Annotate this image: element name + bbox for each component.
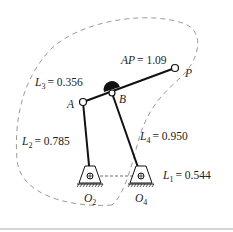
label-L4: L4= 0.950 xyxy=(139,130,188,145)
label-P: P xyxy=(184,67,192,79)
coupler-link xyxy=(83,68,175,102)
ground-pivot-O2 xyxy=(77,166,103,187)
label-O4: O4 xyxy=(135,192,147,207)
joint-B xyxy=(109,90,115,96)
bottom-divider xyxy=(0,228,233,230)
label-L2: L2= 0.785 xyxy=(21,135,70,150)
label-B: B xyxy=(119,93,126,105)
label-A: A xyxy=(66,98,75,110)
ground-pivot-O4 xyxy=(128,166,154,187)
joint-A xyxy=(80,99,87,106)
four-bar-linkage-diagram: AP= 1.09 L3= 0.356 A B P L2= 0.785 L4= 0… xyxy=(0,0,233,232)
point-P xyxy=(172,65,179,72)
label-AP: AP= 1.09 xyxy=(120,54,167,66)
link-L4 xyxy=(112,93,141,176)
link-L2 xyxy=(83,102,90,176)
label-L3: L3= 0.356 xyxy=(34,76,83,91)
label-L1: L1= 0.544 xyxy=(162,169,211,184)
